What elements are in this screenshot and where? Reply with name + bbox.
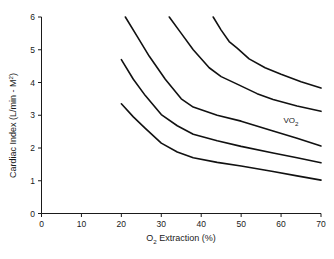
y-tick-label-0: 0 — [30, 209, 35, 219]
x-tick-label-30: 30 — [157, 219, 167, 229]
cardiac-index-vs-o2-extraction-chart: 0123456 010203040506070 VO2 Cardiac Inde… — [0, 0, 334, 259]
y-tick-label-6: 6 — [30, 12, 35, 22]
chart-container: 0123456 010203040506070 VO2 Cardiac Inde… — [0, 0, 334, 259]
x-tick-label-60: 60 — [276, 219, 286, 229]
y-tick-label-2: 2 — [30, 143, 35, 153]
x-tick-label-20: 20 — [117, 219, 127, 229]
y-axis-title-text: Cardiac Index (L/min - M2) — [7, 73, 18, 178]
x-tick-label-70: 70 — [316, 219, 326, 229]
x-tick-label-40: 40 — [196, 219, 206, 229]
x-tick-label-0: 0 — [39, 219, 44, 229]
y-tick-label-1: 1 — [30, 176, 35, 186]
x-tick-label-10: 10 — [77, 219, 87, 229]
y-tick-label-4: 4 — [30, 78, 35, 88]
y-axis-title: Cardiac Index (L/min - M2) — [7, 73, 18, 178]
y-tick-label-3: 3 — [30, 110, 35, 120]
y-tick-label-5: 5 — [30, 45, 35, 55]
x-tick-label-50: 50 — [236, 219, 246, 229]
